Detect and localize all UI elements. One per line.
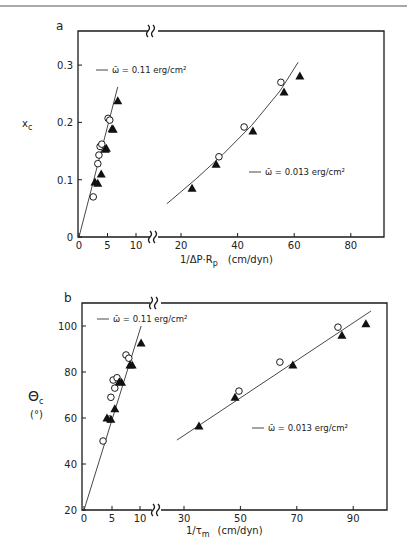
open-circle-marker	[95, 160, 102, 167]
figure: a 05102040608000.10.20.3 xc 1/ΔP·Rp(cm/d…	[0, 0, 407, 552]
y-tick-label: 0.2	[57, 117, 73, 128]
open-circle-marker	[108, 394, 115, 401]
x-tick-label: 10	[134, 513, 147, 524]
open-circle-marker	[277, 359, 284, 366]
axis-break-icon	[150, 297, 160, 516]
panel-a-axis-right	[158, 31, 384, 237]
x-tick-label: 90	[347, 513, 360, 524]
open-circle-marker	[216, 153, 223, 160]
y-tick-label: 60	[64, 413, 77, 424]
open-circle-marker	[236, 388, 243, 395]
x-tick-label: 5	[104, 240, 110, 251]
x-tick-label: 0	[81, 513, 87, 524]
x-tick-label: 5	[109, 513, 115, 524]
x-tick-label: 20	[175, 240, 188, 251]
panel-a-axis-left	[78, 31, 150, 237]
open-circle-marker	[100, 438, 107, 445]
x-tick-label: 80	[344, 240, 357, 251]
open-circle-marker	[126, 355, 133, 362]
axis-break-icon	[147, 25, 157, 243]
filled-triangle-marker	[361, 319, 370, 327]
filled-triangle-marker	[194, 422, 203, 430]
panel-a-legend-1: ω̄ = 0.11 erg/cm²	[112, 65, 186, 75]
filled-triangle-marker	[97, 169, 106, 177]
panel-b-data	[84, 311, 371, 510]
y-tick-label: 100	[58, 321, 77, 332]
open-circle-marker	[278, 79, 285, 86]
y-tick-label: 0.3	[57, 60, 73, 71]
panel-b-ylabel-units: (°)	[30, 409, 43, 420]
panel-a-ylabel: xc	[22, 118, 32, 132]
panel-a-label: a	[56, 19, 63, 33]
panel-b-legend-2: ω̄ = 0.013 erg/cm²	[268, 423, 348, 433]
panel-a-chart: a 05102040608000.10.20.3 xc 1/ΔP·Rp(cm/d…	[22, 19, 384, 268]
x-tick-label: 60	[288, 240, 301, 251]
x-tick-label: 40	[231, 240, 244, 251]
y-tick-label: 40	[64, 459, 77, 470]
x-tick-label: 30	[178, 513, 191, 524]
y-tick-label: 0	[67, 232, 73, 243]
panel-b-chart: b 05103050709020406080100 Θc (°) 1/τm(cm…	[28, 291, 387, 539]
fit-line	[177, 311, 371, 440]
panel-b-ylabel: Θc	[28, 388, 43, 406]
panel-a-data	[79, 62, 304, 237]
panel-b-axis-left	[82, 303, 152, 510]
open-circle-marker	[90, 194, 97, 201]
x-tick-label: 50	[234, 513, 247, 524]
x-tick-label: 10	[130, 240, 143, 251]
y-tick-label: 0.1	[57, 175, 73, 186]
panel-b-xlabel: 1/τm(cm/dyn)	[186, 525, 263, 539]
filled-triangle-marker	[337, 331, 346, 339]
y-tick-label: 80	[64, 367, 77, 378]
open-circle-marker	[106, 117, 113, 124]
filled-triangle-marker	[280, 88, 289, 96]
panel-a-xlabel: 1/ΔP·Rp(cm/dyn)	[180, 254, 273, 268]
panel-b-label: b	[64, 291, 72, 305]
filled-triangle-marker	[295, 71, 304, 79]
x-tick-label: 70	[290, 513, 303, 524]
open-circle-marker	[335, 324, 342, 331]
open-circle-marker	[99, 141, 106, 148]
filled-triangle-marker	[110, 404, 119, 412]
y-tick-label: 20	[64, 505, 77, 516]
open-circle-marker	[241, 124, 248, 131]
panel-a-legend-2: ω̄ = 0.013 erg/cm²	[265, 167, 345, 177]
panel-b-legend-1: ω̄ = 0.11 erg/cm²	[113, 314, 187, 324]
x-tick-label: 0	[76, 240, 82, 251]
panel-b-axis-right	[161, 303, 387, 510]
filled-triangle-marker	[137, 339, 146, 347]
